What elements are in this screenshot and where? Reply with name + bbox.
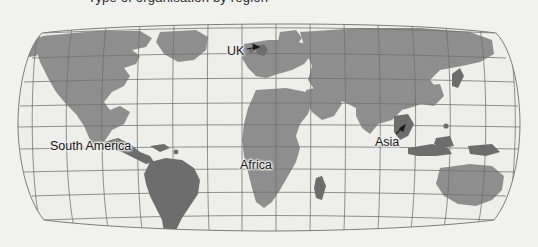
land-antilles	[174, 150, 179, 155]
land-new-zealand-south	[518, 210, 526, 220]
map-label-south-america: South America	[48, 139, 133, 154]
map-label-asia: Asia	[373, 135, 401, 150]
world-map-svg	[0, 6, 538, 247]
caption-text: Type of organisation by region	[88, 0, 268, 5]
land-ireland	[249, 49, 253, 53]
map-label-africa: Africa	[238, 158, 274, 173]
world-map: UK South America Africa Asia	[0, 6, 538, 247]
land-new-zealand	[512, 198, 520, 212]
map-label-uk: UK	[225, 44, 246, 59]
screenshot-root: Type of organisation by region	[0, 0, 538, 247]
